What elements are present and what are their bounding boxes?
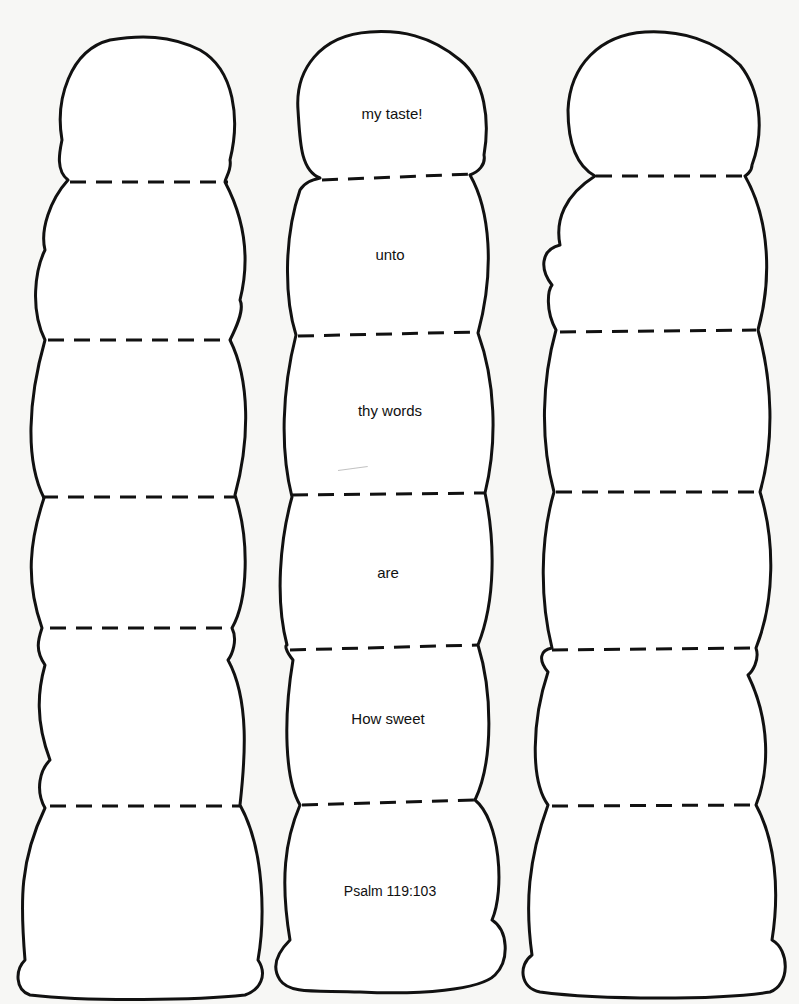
scoop-stack-outlines bbox=[0, 0, 799, 1004]
scoop-label-5: How sweet bbox=[288, 710, 488, 728]
scoop-label-2: unto bbox=[290, 246, 490, 264]
scoop-label-6: Psalm 119:103 bbox=[290, 882, 490, 900]
scoop-stack-left bbox=[18, 37, 262, 1000]
scoop-stack-right bbox=[523, 32, 785, 998]
scoop-label-1: my taste! bbox=[292, 105, 492, 123]
scoop-label-3: thy words bbox=[290, 402, 490, 420]
worksheet-page: my taste! unto thy words are How sweet P… bbox=[0, 0, 799, 1004]
scoop-label-4: are bbox=[288, 564, 488, 582]
scoop-stack-middle bbox=[276, 32, 505, 993]
